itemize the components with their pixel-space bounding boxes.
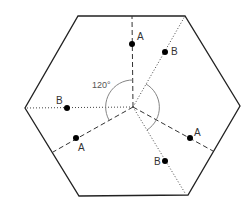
label-a-lower-right: A: [194, 127, 201, 138]
ray-a-lower-left: [53, 107, 133, 152]
ray-a-lower-right: [133, 107, 213, 151]
label-b-bottom: B: [154, 156, 161, 167]
point-a-lower-right: [187, 135, 193, 141]
point-a-top: [129, 41, 135, 47]
label-a-lower-left: A: [78, 142, 85, 153]
point-a-lower-left: [73, 135, 79, 141]
point-b-left: [64, 105, 70, 111]
label-a-top: A: [137, 31, 144, 42]
angle-label: 120°: [92, 80, 111, 90]
label-b-left: B: [56, 95, 63, 106]
hexagon-diagram: 120° A B B A A B: [0, 0, 248, 211]
ray-b-left: [25, 107, 133, 108]
ray-b-upper-right: [133, 16, 185, 107]
ray-a-top: [132, 16, 133, 107]
label-b-upper-right: B: [171, 46, 178, 57]
angle-arc-right: [146, 84, 159, 130]
point-b-bottom: [162, 158, 168, 164]
ray-b-bottom: [133, 107, 185, 193]
point-b-upper-right: [162, 49, 168, 55]
